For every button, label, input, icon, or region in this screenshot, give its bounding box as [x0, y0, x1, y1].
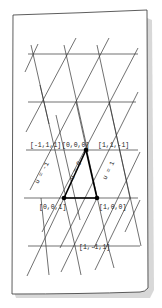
vertex-label: [1,0,0] [99, 204, 126, 211]
vertex-dot-001 [62, 196, 67, 201]
vertex-label: [0,0,0] [62, 142, 89, 149]
vertex-label: [-1,1,1] [30, 142, 61, 149]
lattice-diagram: [-1,1,1] [0,0,0] [1,1,-1] [0,0,1] [1,0,0… [0, 0, 162, 308]
vertex-dot-100 [95, 196, 100, 201]
vertex-label: [0,0,1] [39, 204, 66, 211]
vertex-label: [1,-1,1] [79, 244, 110, 251]
vertex-label: [1,1,-1] [98, 142, 129, 149]
